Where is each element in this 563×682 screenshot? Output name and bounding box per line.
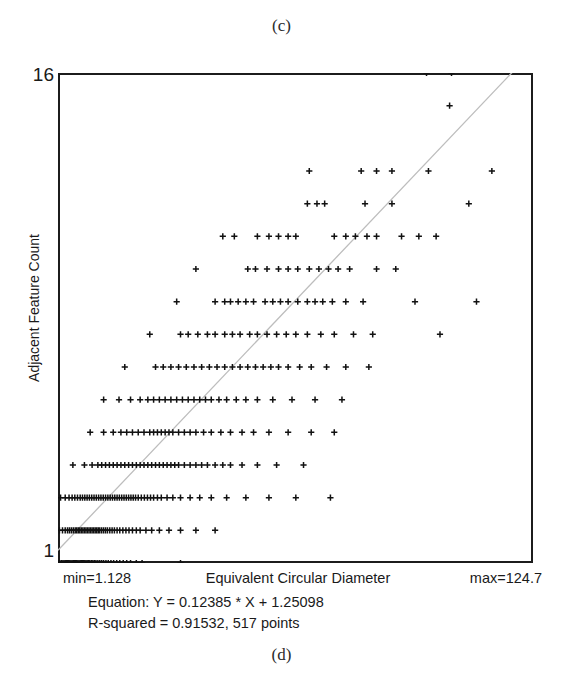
statistics-block: Equation: Y = 0.12385 * X + 1.25098 R-sq… (88, 592, 528, 634)
data-point (335, 266, 341, 272)
data-point (254, 331, 260, 337)
data-point (277, 299, 283, 305)
data-point (133, 560, 139, 563)
data-point (262, 299, 268, 305)
data-point (325, 266, 331, 272)
data-point (208, 429, 214, 435)
data-point (366, 364, 372, 370)
data-point (139, 560, 145, 563)
data-point (197, 397, 203, 403)
data-point (285, 429, 291, 435)
data-point (370, 331, 376, 337)
data-point (235, 299, 241, 305)
data-point (177, 527, 183, 533)
data-point (152, 364, 158, 370)
data-point (156, 397, 162, 403)
data-point (316, 266, 322, 272)
data-point (162, 397, 168, 403)
data-point (331, 429, 337, 435)
data-point (266, 495, 272, 501)
data-point (250, 299, 256, 305)
data-point (224, 397, 230, 403)
data-point (81, 462, 87, 468)
data-point (193, 266, 199, 272)
data-point (250, 429, 256, 435)
panel-label-d: (d) (0, 645, 563, 665)
data-point (423, 73, 429, 76)
data-point (389, 168, 395, 174)
data-point (212, 462, 218, 468)
data-point (101, 397, 107, 403)
data-point (199, 462, 205, 468)
data-point (466, 201, 472, 207)
data-point (175, 364, 181, 370)
data-point (212, 527, 218, 533)
data-point (197, 495, 203, 501)
y-axis-tick-bottom-wrap: 1 (14, 540, 54, 564)
data-point (274, 331, 280, 337)
data-point (212, 299, 218, 305)
data-point (149, 527, 155, 533)
data-point (254, 233, 260, 239)
y-axis-tick-top-wrap: 16 (14, 64, 54, 88)
data-point (179, 397, 185, 403)
data-point (87, 429, 93, 435)
data-point (239, 429, 245, 435)
data-point (285, 233, 291, 239)
data-point (339, 397, 345, 403)
data-point (433, 233, 439, 239)
data-point (312, 397, 318, 403)
data-point (193, 527, 199, 533)
data-point (174, 299, 180, 305)
data-point (323, 364, 329, 370)
rsquared-text: R-squared = 0.91532, 517 points (88, 613, 528, 634)
y-axis-tick-bottom: 1 (43, 540, 54, 562)
x-axis-max-label: max=124.7 (470, 570, 542, 586)
data-point (268, 364, 274, 370)
data-point (306, 168, 312, 174)
data-point (254, 397, 260, 403)
data-point (312, 299, 318, 305)
data-point (224, 495, 230, 501)
data-point (222, 299, 228, 305)
data-point (200, 429, 206, 435)
data-point (285, 364, 291, 370)
data-point (218, 429, 224, 435)
data-point (473, 299, 479, 305)
data-point (214, 364, 220, 370)
data-point (127, 397, 133, 403)
data-point (222, 331, 228, 337)
data-point (320, 299, 326, 305)
data-point (237, 331, 243, 337)
data-point (350, 331, 356, 337)
data-point (331, 331, 337, 337)
data-point (264, 266, 270, 272)
data-point (177, 331, 183, 337)
y-axis-tick-top: 16 (33, 64, 54, 86)
data-point (254, 462, 260, 468)
data-point (331, 233, 337, 239)
data-point (233, 397, 239, 403)
data-point (118, 429, 124, 435)
data-point (239, 462, 245, 468)
data-point (243, 495, 249, 501)
data-point (187, 429, 193, 435)
data-point (208, 495, 214, 501)
data-point (266, 429, 272, 435)
data-point (174, 397, 180, 403)
data-point (127, 560, 133, 563)
data-point (227, 462, 233, 468)
data-point (322, 201, 328, 207)
data-point (293, 233, 299, 239)
equation-text: Equation: Y = 0.12385 * X + 1.25098 (88, 592, 528, 613)
data-point (373, 233, 379, 239)
data-point (314, 201, 320, 207)
data-point (206, 364, 212, 370)
data-point (393, 266, 399, 272)
x-axis-row: min=1.128 Equivalent Circular Diameter m… (58, 570, 538, 590)
data-point (231, 233, 237, 239)
data-point (101, 429, 107, 435)
data-point (185, 397, 191, 403)
data-point (181, 429, 187, 435)
data-point (141, 429, 147, 435)
